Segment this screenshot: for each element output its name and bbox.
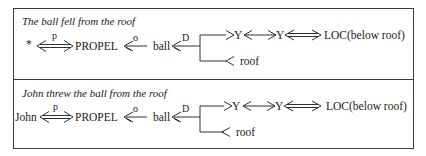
link-label-p: p bbox=[52, 30, 57, 41]
to-arrowhead-icon bbox=[226, 31, 234, 40]
double-arrow-icon bbox=[40, 112, 73, 123]
panel-john-threw: John threw the ball from the roof John p… bbox=[15, 87, 407, 138]
from-node: roof bbox=[236, 126, 255, 138]
double-arrow-icon bbox=[284, 101, 321, 111]
bidirectional-arrow-icon bbox=[244, 31, 276, 40]
link-label-o: o bbox=[133, 32, 138, 43]
to-node-1: Y bbox=[234, 29, 243, 41]
bidirectional-arrow-icon bbox=[243, 102, 275, 111]
result-node: LOC(below roof) bbox=[326, 100, 407, 113]
double-arrow-icon bbox=[37, 41, 73, 52]
to-node-1: Y bbox=[232, 100, 241, 112]
panel-ball-fell: The ball fell from the roof * p PROPEL o… bbox=[22, 15, 405, 67]
link-label-p: p bbox=[53, 101, 58, 112]
from-arrowhead-icon bbox=[226, 57, 234, 66]
object-node: ball bbox=[153, 111, 170, 123]
actor-node: John bbox=[15, 111, 37, 123]
link-label-d: D bbox=[182, 103, 189, 114]
direction-bracket bbox=[200, 106, 224, 132]
to-node-2: Y bbox=[276, 29, 285, 41]
result-node: LOC(below roof) bbox=[324, 29, 405, 42]
double-arrow-icon bbox=[285, 30, 321, 40]
panel-title: John threw the ball from the roof bbox=[22, 87, 169, 99]
primitive-node: PROPEL bbox=[75, 40, 118, 52]
panel-title: The ball fell from the roof bbox=[22, 15, 137, 27]
direction-bracket bbox=[200, 35, 226, 61]
link-label-o: o bbox=[133, 103, 138, 114]
link-label-d: D bbox=[182, 32, 189, 43]
conceptual-dependency-diagram: The ball fell from the roof * p PROPEL o… bbox=[0, 0, 426, 156]
to-arrowhead-icon bbox=[224, 102, 232, 111]
from-node: roof bbox=[240, 55, 259, 67]
object-node: ball bbox=[153, 40, 170, 52]
to-node-2: Y bbox=[275, 100, 284, 112]
actor-node: * bbox=[26, 38, 32, 50]
primitive-node: PROPEL bbox=[75, 111, 118, 123]
